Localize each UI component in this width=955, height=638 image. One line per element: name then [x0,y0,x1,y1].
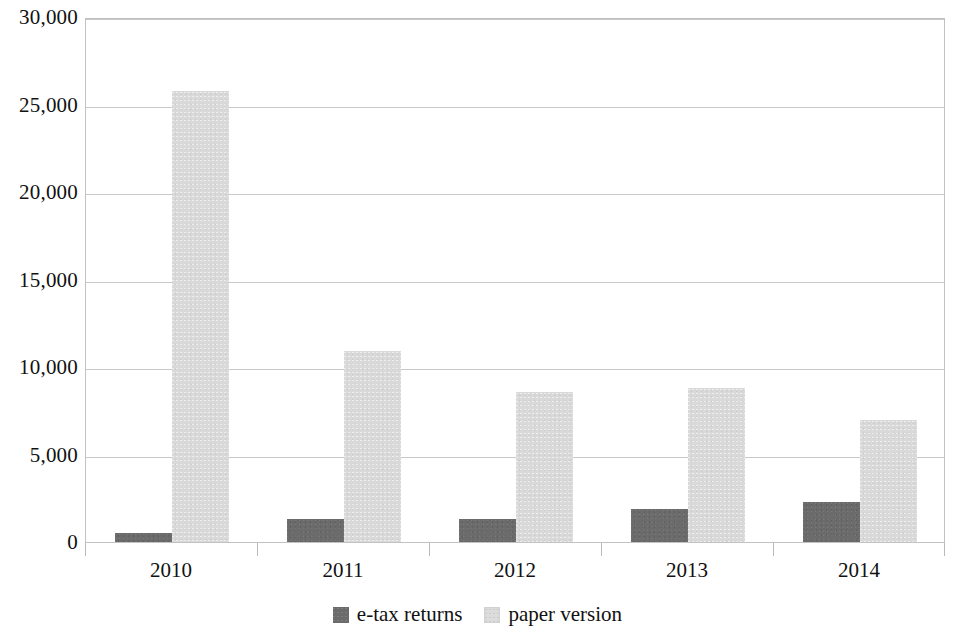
bar-group [258,19,430,542]
y-axis-tick-label: 20,000 [0,182,78,203]
bar-paper-version-2013 [688,388,745,542]
x-axis-tick [85,543,86,556]
x-axis-tick [773,543,774,556]
bar-etax-returns-2013 [631,509,688,542]
bar-etax-returns-2012 [459,519,516,542]
legend-label: paper version [508,604,622,625]
x-axis-tick [429,543,430,556]
y-axis-tick-label: 30,000 [0,7,78,28]
y-axis-tick-label: 15,000 [0,270,78,291]
bar-group [86,19,258,542]
x-axis-tick-labels: 20102011201220132014 [85,558,945,588]
y-axis-tick-label: 10,000 [0,357,78,378]
x-axis-tick-label: 2011 [257,558,429,582]
bar-paper-version-2014 [860,420,917,542]
bar-group [774,19,946,542]
y-axis-tick-label: 25,000 [0,95,78,116]
bars-layer [86,19,944,542]
bar-paper-version-2010 [172,91,229,543]
x-axis-tick-label: 2013 [601,558,773,582]
bar-paper-version-2011 [344,351,401,542]
y-axis-tick-labels: 05,00010,00015,00020,00025,00030,000 [0,0,78,560]
bar-etax-returns-2010 [115,533,172,542]
x-axis-tick [257,543,258,556]
plot-area [85,18,945,543]
legend-swatch-icon [484,607,500,623]
legend-item: e-tax returns [333,604,463,625]
x-axis-tick-label: 2010 [85,558,257,582]
y-axis-tick-label: 5,000 [0,445,78,466]
y-axis-tick-label: 0 [0,532,78,553]
bar-chart: 05,00010,00015,00020,00025,00030,000 201… [0,0,955,638]
legend-label: e-tax returns [357,604,463,625]
chart-legend: e-tax returnspaper version [0,604,955,625]
x-axis-tick-label: 2014 [773,558,945,582]
x-axis-tick [601,543,602,556]
legend-item: paper version [484,604,622,625]
bar-paper-version-2012 [516,392,573,543]
x-axis-tick-label: 2012 [429,558,601,582]
bar-group [430,19,602,542]
bar-etax-returns-2014 [803,502,860,542]
legend-swatch-icon [333,607,349,623]
bar-etax-returns-2011 [287,519,344,542]
bar-group [602,19,774,542]
x-axis-tick [944,543,945,556]
x-axis-ticks [85,543,945,557]
